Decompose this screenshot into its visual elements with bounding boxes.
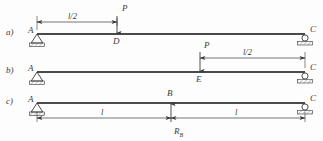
reaction-label-c: RB <box>174 126 183 138</box>
beam-row-b <box>30 52 313 85</box>
beam-diagram-figure: a) b) c) A C D P l/2 A C E P l/2 A C B l… <box>0 0 323 141</box>
node-label-b-right: C <box>310 62 316 72</box>
row-label-b: b) <box>6 65 14 75</box>
pin-support-b <box>30 72 45 85</box>
force-label-a: P <box>122 3 128 13</box>
node-label-d: D <box>113 36 120 46</box>
node-label-b-left: A <box>28 63 34 73</box>
roller-support-b <box>298 73 313 83</box>
dimension-label-c-right: l <box>235 107 237 117</box>
pin-support-a <box>30 34 45 47</box>
dimension-label-b: l/2 <box>243 47 252 57</box>
row-label-c: c) <box>6 96 13 106</box>
node-label-e: E <box>196 74 202 84</box>
node-label-b-mid: B <box>167 88 173 98</box>
roller-support-a <box>298 35 313 45</box>
node-label-a-right: C <box>310 24 316 34</box>
dimension-label-a: l/2 <box>68 11 77 21</box>
dimension-label-c-left: l <box>101 107 103 117</box>
node-label-a-left: A <box>28 25 34 35</box>
row-label-a: a) <box>6 27 14 37</box>
node-label-c-right: C <box>310 93 316 103</box>
diagram-canvas <box>0 0 323 141</box>
force-label-b: P <box>204 40 210 50</box>
reaction-subscript: B <box>180 132 184 138</box>
beam-row-c <box>30 103 313 122</box>
node-label-c-left: A <box>28 94 34 104</box>
